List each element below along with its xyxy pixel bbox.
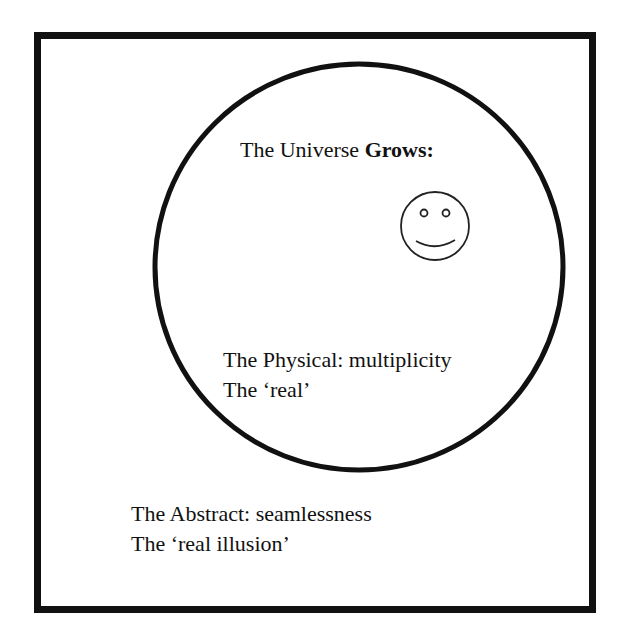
diagram-canvas xyxy=(0,0,633,637)
diagram-title: The Universe Grows: xyxy=(240,135,434,165)
physical-label: The Physical: multiplicity xyxy=(223,345,452,375)
real-label: The ‘real’ xyxy=(223,375,310,405)
smiley-face-icon xyxy=(401,192,469,260)
title-emphasis: Grows: xyxy=(365,137,434,162)
title-prefix: The Universe xyxy=(240,137,365,162)
inner-circle-physical xyxy=(155,64,563,470)
real-illusion-label: The ‘real illusion’ xyxy=(131,529,290,559)
abstract-label: The Abstract: seamlessness xyxy=(131,499,372,529)
